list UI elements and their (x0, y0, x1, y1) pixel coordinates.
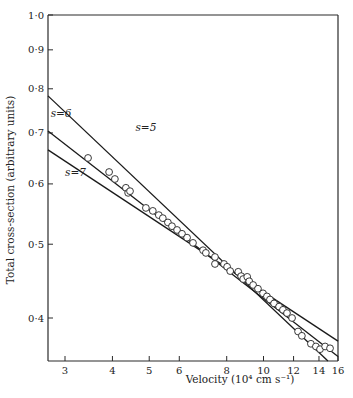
fit-line-s-5 (48, 96, 328, 361)
x-tick-label: 5 (146, 365, 152, 376)
data-point (111, 176, 118, 183)
data-point (212, 254, 219, 261)
x-tick-label: 6 (176, 365, 182, 376)
chart: 3456810121416 0·40·50·60·70·80·91·0 s=5s… (0, 0, 353, 398)
x-tick-label: 4 (109, 365, 115, 376)
line-labels: s=5s=6s=7 (51, 107, 157, 178)
x-axis-title: Velocity (10⁴ cm s⁻¹) (185, 373, 295, 385)
y-axis-ticks: 0·40·50·60·70·80·91·0 (28, 10, 53, 324)
x-tick-label: 3 (62, 365, 68, 376)
y-axis-title: Total cross-section (arbitrary units) (4, 96, 16, 285)
y-tick-label: 0·9 (28, 44, 44, 55)
line-label-s-5: s=5 (135, 121, 156, 133)
fit-lines (48, 96, 338, 361)
line-label-s-7: s=7 (65, 166, 86, 178)
y-tick-label: 0·5 (28, 239, 44, 250)
plot-frame (48, 15, 338, 361)
data-point (149, 207, 156, 214)
data-point (106, 169, 113, 176)
y-tick-label: 0·4 (28, 313, 44, 324)
data-point (227, 268, 234, 275)
data-point (142, 205, 149, 212)
x-tick-label: 16 (332, 365, 345, 376)
data-point (212, 261, 219, 268)
y-tick-label: 0·7 (28, 127, 44, 138)
y-tick-label: 0·6 (28, 178, 44, 189)
data-point (85, 155, 92, 162)
x-tick-label: 14 (313, 365, 326, 376)
y-tick-label: 0·8 (28, 83, 44, 94)
data-point (202, 250, 209, 257)
y-tick-label: 1·0 (28, 10, 44, 21)
data-point (190, 239, 197, 246)
data-point (327, 345, 334, 352)
data-points (85, 155, 334, 353)
data-point (289, 315, 296, 322)
line-label-s-6: s=6 (51, 107, 72, 119)
data-point (184, 234, 191, 241)
data-point (298, 332, 305, 339)
data-point (127, 188, 134, 195)
